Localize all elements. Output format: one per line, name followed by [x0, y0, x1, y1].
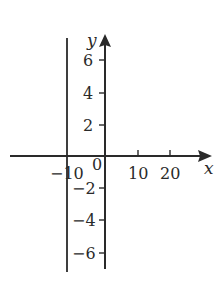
x-tick-label-10: 10: [128, 164, 148, 183]
y-tick-label-2: 2: [83, 116, 93, 135]
y-tick-label-neg6: −6: [72, 244, 96, 263]
y-axis-label: y: [86, 30, 97, 50]
origin-label: 0: [92, 155, 102, 174]
y-tick-label-neg4: −4: [72, 211, 96, 230]
y-tick-label-4: 4: [83, 84, 93, 103]
plot-svg: y x 6 4 2 −2 −4 −6 −10 0 10 20: [0, 0, 224, 285]
x-tick-label-neg10: −10: [50, 164, 84, 183]
x-axis-label: x: [204, 158, 214, 178]
y-tick-label-6: 6: [83, 51, 93, 70]
x-tick-label-20: 20: [160, 164, 180, 183]
coordinate-plane-diagram: y x 6 4 2 −2 −4 −6 −10 0 10 20: [0, 0, 224, 285]
